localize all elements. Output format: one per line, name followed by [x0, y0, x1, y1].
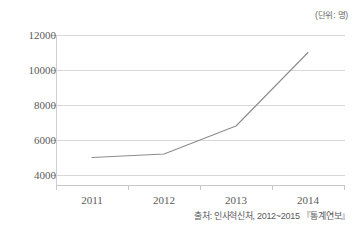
series-line-chart: [0, 28, 358, 188]
series-line-인원: [92, 53, 308, 158]
source-note: 출처: 인사혁신처, 2012~2015 『통계연보』: [194, 209, 350, 222]
clipped-header-text: [4, 0, 184, 4]
xtick-label-2012: 2012: [128, 194, 200, 206]
xtick-label-2013: 2013: [200, 194, 272, 206]
unit-label: (단위: 명): [315, 8, 348, 20]
xtick-label-2014: 2014: [272, 194, 344, 206]
xtick-label-2011: 2011: [56, 194, 128, 206]
chart-figure: (단위: 명) 12000 10000 8000 6000 4000 2011 …: [0, 0, 358, 227]
plot-area: 12000 10000 8000 6000 4000 2011 2012 201…: [0, 28, 358, 188]
